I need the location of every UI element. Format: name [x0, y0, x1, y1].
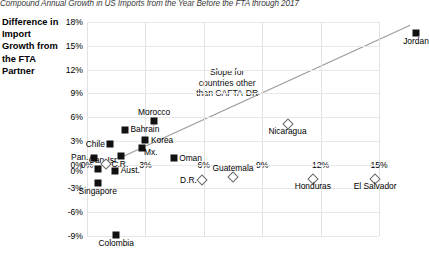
data-point-colombia[interactable]: Colombia [113, 232, 120, 239]
gridline-horizontal [87, 212, 379, 213]
gridline-vertical [379, 22, 380, 236]
gridline-horizontal [87, 188, 379, 189]
data-point-label: Jordan [403, 37, 429, 46]
data-point-honduras[interactable]: Honduras [309, 175, 317, 183]
annotation-line-2: countries other [196, 78, 258, 88]
data-point-label: Colombia [98, 239, 133, 248]
data-point-label: Guatemala [213, 164, 254, 173]
y-axis-tick: 12% [66, 65, 83, 75]
data-point-mx[interactable]: Mx. [138, 145, 145, 152]
data-point-jordan[interactable]: Jordan [412, 30, 419, 37]
gridline-horizontal [87, 93, 379, 94]
gridline-horizontal [87, 141, 379, 142]
gridline-horizontal [87, 22, 379, 23]
data-point-bahrain[interactable]: Bahrain [121, 126, 128, 133]
gridline-horizontal [87, 46, 379, 47]
square-marker-icon [107, 141, 114, 148]
square-marker-icon [142, 137, 149, 144]
data-point-el-salvador[interactable]: El Salvador [371, 175, 379, 183]
gridline-vertical [321, 22, 322, 236]
y-axis-tick: -9% [68, 231, 83, 241]
data-point-c-r[interactable]: C.R. [102, 160, 110, 168]
plot-area: Slope for countries other than CAFTA-DR … [87, 22, 379, 236]
data-point-label: D.R. [180, 175, 197, 184]
data-point-can[interactable]: Can. [94, 166, 101, 173]
gridline-vertical [87, 22, 88, 236]
data-point-label: C.R. [111, 160, 128, 169]
data-point-label: Oman [179, 154, 202, 163]
data-point-guatemala[interactable]: Guatemala [229, 173, 237, 181]
gridline-vertical [204, 22, 205, 236]
y-axis-tick: -6% [68, 207, 83, 217]
y-axis-tick: 6% [71, 112, 83, 122]
data-point-singapore[interactable]: Singapore [94, 180, 101, 187]
y-axis-tick: 3% [71, 136, 83, 146]
square-marker-icon [170, 155, 177, 162]
data-point-d-r[interactable]: D.R. [198, 176, 206, 184]
data-point-korea[interactable]: Korea [142, 137, 149, 144]
origin-label: 0% [71, 166, 83, 176]
diamond-marker-icon [227, 172, 238, 183]
data-point-label: Bahrain [130, 125, 159, 134]
gridline-horizontal [87, 117, 379, 118]
data-point-nicaragua[interactable]: Nicaragua [284, 120, 292, 128]
data-point-label: Chile [86, 140, 105, 149]
chart-title: Compound Annual Growth in US Imports fro… [0, 0, 299, 8]
data-point-label: Nicaragua [268, 127, 306, 136]
data-point-label: Singapore [79, 187, 117, 196]
data-point-label: Korea [151, 136, 173, 145]
y-axis-tick: 15% [66, 41, 83, 51]
data-point-chile[interactable]: Chile [107, 141, 114, 148]
square-marker-icon [121, 126, 128, 133]
square-marker-icon [94, 166, 101, 173]
gridline-vertical [262, 22, 263, 236]
y-axis-tick: 18% [66, 17, 83, 27]
data-point-label: Honduras [295, 182, 331, 191]
data-point-label: El Salvador [354, 182, 397, 191]
data-point-label: Morocco [138, 108, 170, 117]
gridline-horizontal [87, 70, 379, 71]
data-point-oman[interactable]: Oman [170, 155, 177, 162]
y-axis-title: Difference in Import Growth from the FTA… [2, 16, 64, 77]
diamond-marker-icon [196, 174, 207, 185]
y-axis-tick: 9% [71, 88, 83, 98]
data-point-label: Mx. [144, 148, 158, 157]
diamond-marker-icon [101, 159, 112, 170]
data-point-label: Pan. [71, 153, 88, 162]
